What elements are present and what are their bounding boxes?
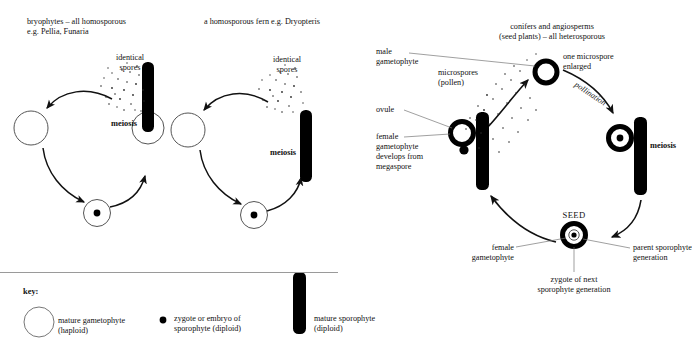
zygote-next-generation-label-line1: zygote of next	[506, 275, 642, 285]
microspore-enlarged-ring	[535, 61, 557, 83]
fern-meiosis-label: meiosis	[244, 148, 296, 158]
seed-female-gametophyte-label-line1: female	[462, 243, 514, 253]
sporophyte-bar-seedplant-left	[476, 112, 489, 190]
key-open-circle-icon	[24, 307, 54, 337]
gametophyte-circle-bryophyte	[14, 111, 48, 145]
fern-spores-label-line2: spores	[258, 65, 316, 75]
sporophyte-bar-fern	[300, 110, 312, 182]
seedplant-meiosis-label: meiosis	[650, 141, 676, 151]
key-item-zygote-line2: sporophyte (diploid)	[174, 324, 241, 334]
bryophyte-meiosis-label: meiosis	[85, 119, 137, 129]
panel-fern-cycle	[171, 64, 312, 228]
panel-bryophytes-heading-line2: e.g. Pellia, Funaria	[27, 27, 89, 37]
fertilised-ovule-dot	[617, 135, 624, 142]
bryophyte-spores-label-line1: identical	[101, 53, 159, 63]
key-divider	[0, 272, 338, 273]
key-item-sporophyte-line2: (diploid)	[314, 324, 343, 334]
ovule-ring	[451, 122, 474, 145]
sporophyte-bar-seedplant-right	[634, 117, 647, 195]
key-title: key:	[23, 287, 38, 297]
panel-seedplants-heading-line2: (seed plants) – all heterosporous	[452, 32, 652, 42]
key-item-sporophyte-line1: mature sporophyte	[314, 314, 375, 324]
male-gametophyte-label-line1: male	[376, 47, 392, 57]
key-item-gametophyte-line2: (haploid)	[58, 326, 88, 336]
zygote-dot-fern	[251, 212, 258, 219]
heading-prefix: a homosporous fern e.g.	[204, 17, 285, 26]
ovule-label: ovule	[376, 105, 394, 115]
heading-species: Dryopteris	[285, 17, 320, 26]
one-microspore-label-line1: one microspore	[563, 52, 614, 62]
seed-female-gametophyte-label-line2: gametophyte	[452, 253, 514, 263]
one-microspore-label-line2: enlarged	[563, 62, 591, 72]
female-gametophyte-label-line1: female	[376, 132, 398, 142]
microspores-label-line1: microspores	[438, 68, 478, 78]
key-filled-dot-icon	[160, 317, 167, 324]
diagram-canvas: bryophytes – all homosporous e.g. Pellia…	[0, 0, 692, 351]
microspores-label-line2: (pollen)	[438, 78, 464, 88]
seed-zygote-dot	[571, 232, 576, 237]
female-gametophyte-label-line3: develops from	[376, 152, 423, 162]
zygote-dot-bryophyte	[94, 210, 101, 217]
bryophyte-spores-label-line2: spores	[101, 63, 159, 73]
panel-bryophytes-cycle	[14, 62, 164, 227]
female-gametophyte-label-line4: megaspore	[376, 162, 411, 172]
panel-fern-heading: a homosporous fern e.g. Dryopteris	[204, 17, 320, 27]
female-gametophyte-label-line2: gametophyte	[376, 142, 418, 152]
key-item-zygote-line1: zygote or embryo of	[174, 314, 241, 324]
gametophyte-circle-fern	[171, 113, 205, 147]
zygote-next-generation-label-line2: sporophyte generation	[506, 285, 642, 295]
pollen-source-clump	[459, 145, 468, 154]
panel-seedplants-heading-line1: conifers and angiosperms	[452, 22, 652, 32]
parent-sporophyte-label-line2: generation	[633, 253, 668, 263]
key-black-bar-icon	[293, 272, 306, 334]
male-gametophyte-label-line2: gametophyte	[376, 57, 418, 67]
seed-label: SEED	[548, 211, 600, 221]
heading-species: Pellia, Funaria	[41, 27, 89, 36]
parent-sporophyte-label-line1: parent sporophyte	[633, 243, 692, 253]
panel-bryophytes-heading-line1: bryophytes – all homosporous	[27, 17, 126, 27]
key-item-gametophyte-line1: mature gametophyte	[58, 316, 125, 326]
heading-prefix: e.g.	[27, 27, 41, 36]
fern-spores-label-line1: identical	[258, 55, 316, 65]
